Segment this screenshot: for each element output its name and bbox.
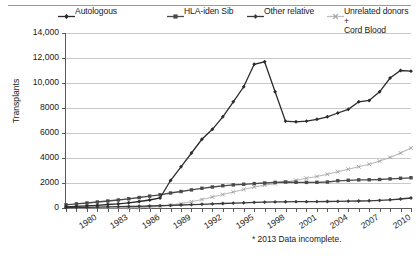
y-axis-title: Transplants [11, 61, 21, 141]
plot-area [66, 33, 411, 208]
y-tick-label: 10,000 [33, 77, 59, 87]
x-tick-label: 2010 [391, 212, 413, 231]
x-tick-label: 1980 [77, 212, 99, 231]
x-tick-label: 2001 [296, 212, 318, 231]
legend-item-autologous: Autologous [58, 7, 117, 19]
data-series [66, 33, 411, 209]
legend-label-hla-iden-sib: HLA-iden Sib [184, 7, 233, 17]
y-axis: Transplants 14,00012,00010,0008000600040… [0, 0, 63, 261]
x-tick-label: 1995 [234, 212, 256, 231]
y-tick-label: 12,000 [33, 52, 59, 62]
y-tick-label: 6000 [40, 127, 59, 137]
series-other-relative [64, 196, 413, 209]
legend-marker-unrelated-donors [327, 8, 344, 19]
y-tick-label: 4000 [40, 152, 59, 162]
x-tick-label: 1992 [202, 212, 224, 231]
legend-item-unrelated-donors: Unrelated donors + Cord Blood [327, 7, 415, 36]
x-tick-label: 1983 [108, 212, 130, 231]
x-tick-labels: 1980198319861989199219951998200120042007… [66, 210, 418, 244]
legend-label-other-relative: Other relative [264, 7, 314, 17]
x-tick-label: 2004 [328, 212, 350, 231]
x-tick-label: 1989 [171, 212, 193, 231]
x-tick-label: 1998 [265, 212, 287, 231]
y-tick-label: 0 [54, 202, 59, 212]
chart-legend: Autologous HLA-iden Sib Other relative [50, 7, 415, 33]
legend-marker-hla-iden-sib [167, 8, 184, 19]
legend-item-other-relative: Other relative [247, 7, 314, 19]
chart-page: Autologous HLA-iden Sib Other relative [0, 0, 419, 261]
legend-marker-other-relative [247, 8, 264, 19]
x-tick-label: 1986 [140, 212, 162, 231]
y-tick-label: 2000 [40, 177, 59, 187]
y-tick-label: 8000 [40, 102, 59, 112]
x-tick-label: 2007 [359, 212, 381, 231]
footnote: * 2013 Data incomplete. [252, 234, 341, 244]
legend-label-unrelated-donors: Unrelated donors + Cord Blood [344, 7, 415, 36]
y-tick-label: 14,000 [33, 27, 59, 37]
legend-item-hla-iden-sib: HLA-iden Sib [167, 7, 233, 19]
legend-label-autologous: Autologous [75, 7, 117, 17]
series-autologous [64, 60, 413, 209]
